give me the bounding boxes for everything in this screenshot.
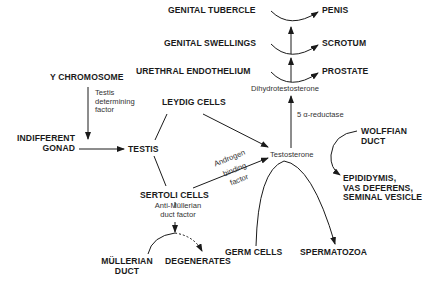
label-5-alpha-reductase: 5 α-reductase xyxy=(297,111,344,119)
node-dihydrotestosterone: Dihydrotestosterone xyxy=(251,85,319,93)
line-testis-leydig xyxy=(155,114,167,140)
node-genital-swellings: GENITAL SWELLINGS xyxy=(164,39,256,48)
node-germ-cells: GERM CELLS xyxy=(225,248,282,257)
node-epididymis: EPIDIDYMIS, VAS DEFERENS, SEMINAL VESICL… xyxy=(343,174,422,203)
node-testis: TESTIS xyxy=(128,145,159,154)
node-penis: PENIS xyxy=(322,6,348,15)
node-y-chromosome: Y CHROMOSOME xyxy=(50,73,124,82)
node-sertoli-cells: SERTOLI CELLS xyxy=(140,191,209,200)
arrow-mullerian-to-degenerates xyxy=(175,233,202,251)
node-testosterone: Testosterone xyxy=(270,151,313,159)
label-anti-mullerian-duct-factor: Anti-Müllerian duct factor xyxy=(140,202,216,219)
arrow-germ-to-spermatozoa xyxy=(256,161,335,246)
node-indifferent-gonad: INDIFFERENT GONAD xyxy=(9,134,75,153)
arrow-wolffian-to-epididymis xyxy=(331,131,357,175)
label-testis-determining-factor: Testis determining factor xyxy=(95,89,135,115)
diagram-canvas: GENITAL TUBERCLE PENIS GENITAL SWELLINGS… xyxy=(0,0,438,288)
arrow-tubercle-to-penis xyxy=(271,11,318,21)
arrow-mullerian-curve-solid xyxy=(148,233,175,254)
node-wolffian-duct: WOLFFIAN DUCT xyxy=(361,127,407,146)
node-degenerates: DEGENERATES xyxy=(165,257,231,266)
node-urethral-endothelium: URETHRAL ENDOTHELIUM xyxy=(136,67,251,76)
node-mullerian-duct: MÜLLERIAN DUCT xyxy=(99,257,155,276)
arrow-leydig-to-testosterone xyxy=(203,114,268,147)
line-testis-sertoli xyxy=(154,156,166,186)
node-spermatozoa: SPERMATOZOA xyxy=(300,248,367,257)
arrow-urethral-to-prostate xyxy=(271,72,318,82)
node-genital-tubercle: GENITAL TUBERCLE xyxy=(168,6,256,15)
node-scrotum: SCROTUM xyxy=(322,39,366,48)
node-leydig-cells: LEYDIG CELLS xyxy=(162,98,226,107)
arrow-swellings-to-scrotum xyxy=(271,44,318,54)
node-prostate: PROSTATE xyxy=(322,67,368,76)
